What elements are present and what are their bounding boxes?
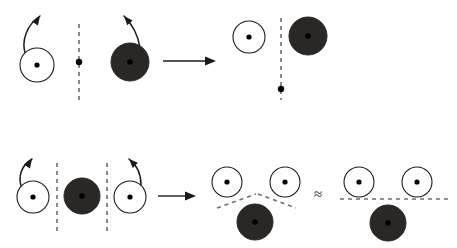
bottom-middle-open-circle-2-center-dot	[282, 179, 287, 184]
bottom-right-open-circle-1-center-dot	[356, 179, 361, 184]
top-right-filled-circle-center-dot	[305, 33, 311, 39]
bottom-right-filled-circle-center-dot	[385, 220, 391, 226]
bottom-left-open-circle-1-center-dot	[30, 194, 35, 199]
top-right-axis-dot	[278, 86, 284, 92]
top-right-open-circle-center-dot	[246, 34, 251, 39]
bottom-middle-open-circle-1-center-dot	[224, 179, 229, 184]
bottom-left-filled-circle-center-dot	[79, 193, 85, 199]
top-left-filled-circle-center-dot	[127, 59, 133, 65]
bottom-middle-filled-circle-center-dot	[252, 219, 258, 225]
diagram-root: ≈	[0, 0, 457, 248]
approx-symbol: ≈	[314, 186, 322, 202]
physics-spin-diagram: ≈	[0, 0, 457, 248]
top-left-axis-dot	[76, 59, 82, 65]
symbol-layer: ≈	[314, 186, 322, 202]
bottom-right-open-circle-2-center-dot	[414, 179, 419, 184]
bottom-left-open-circle-2-center-dot	[127, 194, 132, 199]
top-left-open-circle-center-dot	[34, 62, 39, 67]
